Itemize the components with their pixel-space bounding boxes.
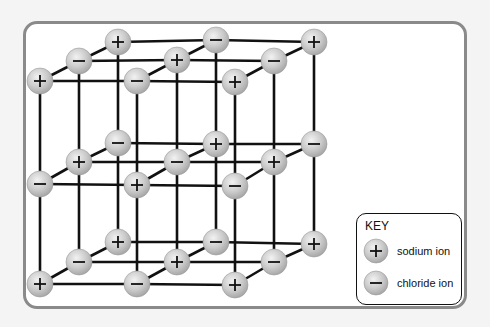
sodium-ion-icon — [363, 238, 389, 264]
sodium-ion — [27, 271, 53, 297]
sodium-ion — [301, 29, 327, 55]
sodium-ion — [164, 47, 190, 73]
chloride-ion — [124, 68, 150, 94]
sodium-ion — [261, 149, 287, 175]
key-item-sodium: sodium ion — [363, 238, 450, 264]
chloride-ion-icon — [363, 270, 389, 296]
key-label-chloride: chloride ion — [397, 277, 453, 289]
sodium-ion — [27, 68, 53, 94]
chloride-ion — [301, 131, 327, 157]
key-item-chloride: chloride ion — [363, 270, 453, 296]
chloride-ion — [203, 229, 229, 255]
sodium-ion — [105, 229, 131, 255]
sodium-ion — [66, 149, 92, 175]
chloride-ion — [27, 171, 53, 197]
chloride-ion — [261, 48, 287, 74]
sodium-ion — [124, 172, 150, 198]
chloride-ion — [164, 149, 190, 175]
chloride-ion — [222, 173, 248, 199]
sodium-ion — [105, 29, 131, 55]
key-legend: KEY sodium ion chloride ion — [356, 213, 462, 305]
sodium-ion — [203, 131, 229, 157]
chloride-ion — [105, 130, 131, 156]
sodium-ion — [301, 231, 327, 257]
chloride-ion — [124, 271, 150, 297]
key-title: KEY — [365, 219, 389, 233]
ions — [27, 27, 327, 298]
chloride-ion — [66, 48, 92, 74]
sodium-ion — [164, 249, 190, 275]
chloride-ion — [203, 27, 229, 53]
chloride-ion — [261, 249, 287, 275]
chloride-ion — [66, 249, 92, 275]
sodium-ion — [222, 272, 248, 298]
key-label-sodium: sodium ion — [397, 245, 450, 257]
sodium-ion — [222, 69, 248, 95]
